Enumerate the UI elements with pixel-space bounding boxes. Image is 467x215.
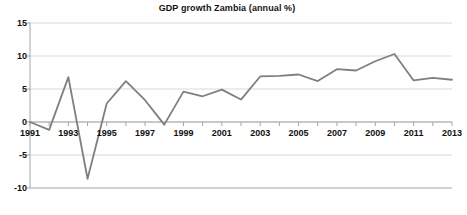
x-axis-tick-label: 2013 [435,128,467,138]
x-axis-tick-label: 1995 [90,128,124,138]
x-axis-tick-label: 2003 [243,128,277,138]
x-axis-tick-label: 1993 [51,128,85,138]
x-axis-tick-label: 2011 [397,128,431,138]
x-axis-tick-label: 1999 [166,128,200,138]
x-axis-tick-label: 2005 [282,128,316,138]
x-axis-tick-label: 2009 [358,128,392,138]
x-axis-tick-label: 2001 [205,128,239,138]
x-axis-tick-label: 2007 [320,128,354,138]
x-axis-tick-label: 1991 [13,128,47,138]
x-axis-tick-label: 1997 [128,128,162,138]
